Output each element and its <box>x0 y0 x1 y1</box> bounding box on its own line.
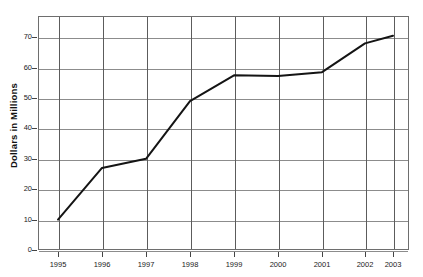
x-axis-tick-mark <box>278 252 279 257</box>
y-axis-tick-label: 60 <box>6 64 32 72</box>
x-axis-tick-label: 2003 <box>373 260 413 269</box>
x-axis-tick-mark <box>393 252 394 257</box>
x-axis-tick-label: 1997 <box>126 260 166 269</box>
y-axis-tick-label: 20 <box>6 185 32 193</box>
y-axis-tick-label: 70 <box>6 33 32 41</box>
x-axis-tick-mark <box>102 252 103 257</box>
y-axis-tick-mark <box>32 68 37 69</box>
x-axis-tick-label: 1998 <box>170 260 210 269</box>
y-axis-tick-mark <box>32 37 37 38</box>
x-axis-tick-label: 2001 <box>302 260 342 269</box>
x-axis-tick-label: 1999 <box>214 260 254 269</box>
x-axis-tick-group: 199519961997199819992000200120022003 <box>38 252 409 272</box>
y-axis-tick-label: 40 <box>6 124 32 132</box>
x-axis-tick-mark <box>322 252 323 257</box>
y-axis-tick-group: 010203040506070 <box>0 16 32 250</box>
data-series-line <box>38 16 409 250</box>
y-axis-tick-mark <box>32 189 37 190</box>
x-axis-tick-mark <box>234 252 235 257</box>
y-axis-tick-label: 0 <box>6 246 32 254</box>
y-axis-tick-mark <box>32 220 37 221</box>
y-axis-tick-label: 30 <box>6 155 32 163</box>
y-axis-tick-mark <box>32 128 37 129</box>
y-axis-tick-label: 50 <box>6 94 32 102</box>
x-axis-tick-label: 1995 <box>38 260 78 269</box>
x-axis-tick-mark <box>365 252 366 257</box>
y-axis-tick-mark <box>32 250 37 251</box>
y-axis-tick-label: 10 <box>6 216 32 224</box>
y-axis-tick-mark <box>32 98 37 99</box>
x-axis-tick-mark <box>146 252 147 257</box>
x-axis-tick-mark <box>58 252 59 257</box>
x-axis-tick-label: 1996 <box>82 260 122 269</box>
x-axis-tick-label: 2000 <box>258 260 298 269</box>
x-axis-tick-mark <box>190 252 191 257</box>
line-chart-figure: Dollars in Millions 010203040506070 1995… <box>0 0 423 277</box>
series-polyline <box>58 36 393 220</box>
y-axis-tick-mark <box>32 159 37 160</box>
